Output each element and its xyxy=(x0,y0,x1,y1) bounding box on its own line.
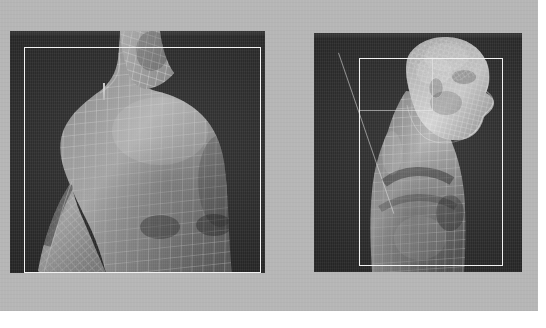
selection-bounding-box-side-inner[interactable] xyxy=(359,58,433,111)
wireframe-model-torso xyxy=(10,31,265,273)
page-canvas xyxy=(0,0,546,328)
page-bottom-margin xyxy=(0,311,546,328)
vertex-handle-marker[interactable] xyxy=(103,83,105,100)
viewport-front-view[interactable] xyxy=(10,31,265,273)
wireframe-mesh-front xyxy=(10,31,265,273)
viewport-side-view[interactable] xyxy=(314,33,522,272)
page-right-margin xyxy=(538,0,546,311)
